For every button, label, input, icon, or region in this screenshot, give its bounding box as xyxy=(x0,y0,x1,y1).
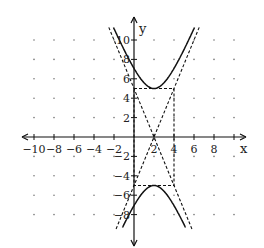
grid-dot xyxy=(93,117,95,119)
x-axis-label: x xyxy=(240,141,248,156)
grid-dot xyxy=(213,194,215,196)
grid-dot xyxy=(53,78,55,80)
tick-labels: −10−8−6−4−22468108642−2−4−6−8 xyxy=(22,34,217,222)
grid-dot xyxy=(53,117,55,119)
grid-dot xyxy=(33,117,35,119)
x-tick-label: −10 xyxy=(22,143,45,156)
grid-dot xyxy=(73,214,75,216)
grid-dot xyxy=(213,39,215,41)
hyperbola-graph: −10−8−6−4−22468108642−2−4−6−8 x y xyxy=(0,0,264,248)
grid-dot xyxy=(73,97,75,99)
grid-dot xyxy=(233,156,235,158)
grid-dot xyxy=(153,39,155,41)
grid-dot xyxy=(73,175,75,177)
grid-dot xyxy=(73,78,75,80)
grid-dot xyxy=(53,194,55,196)
y-tick-label: 6 xyxy=(123,73,130,86)
y-tick-label: −4 xyxy=(114,170,130,183)
y-tick-label: −2 xyxy=(114,150,130,163)
grid-dot xyxy=(213,97,215,99)
grid-dot xyxy=(113,78,115,80)
grid-dot xyxy=(113,117,115,119)
grid-dot xyxy=(53,97,55,99)
grid-dot xyxy=(213,59,215,61)
grid-dot xyxy=(33,59,35,61)
grid-dot xyxy=(93,194,95,196)
grid-dot xyxy=(153,175,155,177)
grid-dot xyxy=(153,214,155,216)
x-tick-label: −8 xyxy=(46,143,62,156)
grid-dot xyxy=(213,78,215,80)
grid-dot xyxy=(93,214,95,216)
grid-dot xyxy=(153,59,155,61)
x-tick-label: 8 xyxy=(211,143,218,156)
grid-dot xyxy=(93,39,95,41)
grid-dot xyxy=(193,194,195,196)
grid-dot xyxy=(193,117,195,119)
grid-dot xyxy=(173,78,175,80)
grid-dot xyxy=(193,214,195,216)
grid-dot xyxy=(33,39,35,41)
grid-dot xyxy=(233,78,235,80)
grid-dot xyxy=(233,97,235,99)
y-tick-label: 2 xyxy=(123,112,130,125)
x-tick-label: 4 xyxy=(171,143,178,156)
grid-dot xyxy=(73,194,75,196)
y-tick-label: 4 xyxy=(123,92,130,105)
axes xyxy=(22,17,246,246)
grid-dot xyxy=(153,97,155,99)
grid-dot xyxy=(33,175,35,177)
grid-dot xyxy=(113,97,115,99)
grid-dot xyxy=(33,97,35,99)
grid-dot xyxy=(73,39,75,41)
y-tick-label: 8 xyxy=(123,53,130,66)
grid-dot xyxy=(233,59,235,61)
grid-dot xyxy=(153,194,155,196)
grid-dot xyxy=(153,117,155,119)
grid-dot xyxy=(53,59,55,61)
x-tick-label: 6 xyxy=(191,143,198,156)
grid-dot xyxy=(53,214,55,216)
grid-dot xyxy=(173,194,175,196)
grid-dot xyxy=(173,59,175,61)
grid-dot xyxy=(233,39,235,41)
grid-dot xyxy=(233,194,235,196)
grid-dot xyxy=(93,59,95,61)
grid-dot xyxy=(193,59,195,61)
grid-dot xyxy=(53,39,55,41)
grid-dot xyxy=(93,97,95,99)
grid-dot xyxy=(33,194,35,196)
grid-dot xyxy=(73,59,75,61)
grid-dot xyxy=(173,117,175,119)
grid-dot xyxy=(193,97,195,99)
x-tick-label: −4 xyxy=(86,143,102,156)
grid-dot xyxy=(173,39,175,41)
grid-dot xyxy=(213,214,215,216)
grid-dot xyxy=(33,78,35,80)
grid-dot xyxy=(73,117,75,119)
grid-dot xyxy=(193,175,195,177)
grid-dot xyxy=(233,117,235,119)
grid-dot xyxy=(213,117,215,119)
y-tick-label: 10 xyxy=(116,34,130,47)
grid-dot xyxy=(233,175,235,177)
grid-dot xyxy=(53,175,55,177)
y-tick-label: −8 xyxy=(114,209,130,222)
y-axis-label: y xyxy=(138,21,147,36)
grid-dot xyxy=(173,214,175,216)
x-tick-label: 2 xyxy=(151,143,158,156)
grid-dot xyxy=(233,214,235,216)
grid-dot xyxy=(113,59,115,61)
grid-dot xyxy=(153,78,155,80)
grid-dot xyxy=(213,175,215,177)
x-tick-label: −6 xyxy=(66,143,82,156)
y-tick-label: −6 xyxy=(114,189,130,202)
grid-dot xyxy=(93,175,95,177)
grid-dot xyxy=(33,214,35,216)
grid-dot xyxy=(93,78,95,80)
grid-dot xyxy=(193,78,195,80)
